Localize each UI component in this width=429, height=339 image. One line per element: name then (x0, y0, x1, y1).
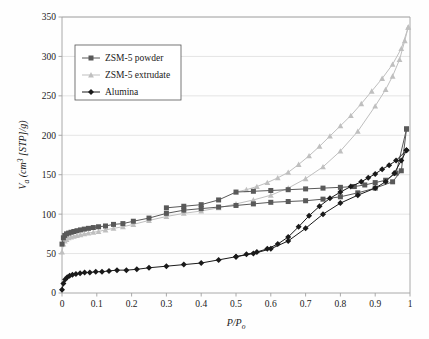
y-tick-label-0: 0 (51, 288, 56, 298)
data-point (234, 203, 239, 208)
data-point (264, 180, 270, 185)
data-point (303, 186, 308, 191)
series-alumina-adsorption (59, 147, 410, 293)
x-tick-label-9: 0.9 (369, 299, 381, 309)
data-point (163, 263, 169, 269)
data-point (82, 269, 88, 275)
legend-label-2: Alumina (105, 87, 139, 97)
x-tick-label-7: 0.7 (300, 299, 312, 309)
data-point (99, 269, 105, 275)
data-point (365, 175, 371, 181)
data-point (164, 211, 169, 216)
data-point (383, 87, 389, 92)
y-tick-label-50: 50 (47, 249, 57, 259)
data-point (397, 57, 403, 62)
data-point (91, 225, 96, 230)
data-point (268, 200, 273, 205)
data-point (372, 171, 378, 177)
y-axis-title-unit-post: [STP]/g) (17, 120, 29, 159)
legend-label-1: ZSM-5 extrudate (105, 70, 170, 80)
data-point (59, 249, 65, 254)
data-point (147, 216, 152, 221)
data-point (251, 189, 256, 194)
y-axis-title-group: Va (cm3 [STP]/g) (16, 120, 32, 190)
data-point (164, 205, 169, 210)
data-point (131, 219, 136, 224)
x-tick-label-2: 0.2 (126, 299, 138, 309)
data-point (321, 186, 326, 191)
data-point (120, 221, 125, 226)
data-point (96, 224, 101, 229)
data-point (93, 269, 99, 275)
data-point (303, 176, 309, 181)
y-tick-label-250: 250 (42, 91, 57, 101)
legend-marker-square-icon (89, 56, 94, 61)
y-axis-title-unit-pre: (cm (17, 162, 29, 180)
data-point (268, 192, 274, 197)
x-tick-label-0: 0 (60, 299, 65, 309)
series-zsm-5-powder-desorption (164, 126, 409, 210)
data-point (123, 267, 129, 273)
data-point (399, 168, 404, 173)
y-tick-label-100: 100 (42, 210, 57, 220)
y-tick-label-300: 300 (42, 52, 57, 62)
data-point (106, 268, 112, 274)
data-point (199, 202, 204, 207)
x-tick-label-5: 0.5 (230, 299, 242, 309)
data-point (337, 189, 343, 195)
data-point (337, 200, 343, 206)
data-point (111, 222, 116, 227)
x-tick-label-8: 0.8 (334, 299, 346, 309)
legend-label-0: ZSM-5 powder (105, 53, 164, 63)
data-point (216, 257, 222, 263)
data-point (181, 204, 186, 209)
x-tick-label-6: 0.6 (265, 299, 277, 309)
chart-legend: ZSM-5 powderZSM-5 extrudateAlumina (75, 45, 181, 100)
data-point (286, 199, 291, 204)
data-point (372, 103, 378, 108)
data-point (303, 198, 308, 203)
y-tick-label-150: 150 (42, 170, 57, 180)
data-point (86, 226, 91, 231)
data-point (114, 267, 120, 273)
data-point (233, 254, 239, 260)
data-point (390, 61, 396, 66)
y-tick-label-200: 200 (42, 131, 57, 141)
data-point (59, 287, 65, 293)
y-axis-title: Va (cm3 [STP]/g) (16, 120, 32, 190)
data-point (386, 162, 392, 168)
data-point (275, 175, 281, 180)
isotherm-figure: 05010015020025030035000.10.20.30.40.50.6… (0, 0, 429, 339)
x-tick-label-3: 0.3 (160, 299, 172, 309)
data-point (77, 270, 83, 276)
data-point (60, 242, 65, 247)
data-point (286, 187, 291, 192)
data-point (268, 188, 273, 193)
data-point (87, 269, 93, 275)
chart-canvas: 05010015020025030035000.10.20.30.40.50.6… (0, 0, 429, 339)
data-point (181, 262, 187, 268)
series-line (62, 150, 407, 290)
data-point (103, 223, 108, 228)
y-tick-label-350: 350 (42, 12, 57, 22)
series-line (166, 129, 406, 208)
data-point (373, 180, 378, 185)
data-point (234, 190, 239, 195)
x-axis-title: P/Po (226, 317, 246, 331)
data-point (216, 205, 221, 210)
data-point (251, 201, 256, 206)
x-tick-label-10: 1 (408, 299, 413, 309)
data-point (243, 251, 249, 257)
data-point (379, 166, 385, 172)
data-point (134, 266, 140, 272)
data-point (321, 197, 326, 202)
data-point (254, 184, 260, 189)
data-point (390, 73, 396, 78)
data-point (390, 179, 395, 184)
x-tick-label-1: 0.1 (91, 299, 103, 309)
data-point (404, 126, 409, 131)
data-point (198, 260, 204, 266)
data-point (146, 265, 152, 271)
data-point (264, 246, 270, 252)
data-point (216, 197, 221, 202)
